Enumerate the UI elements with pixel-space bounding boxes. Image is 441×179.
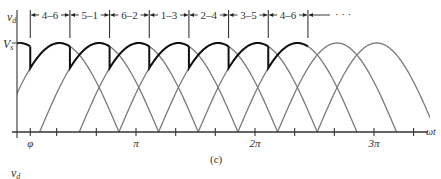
phase-voltage-humps [0, 43, 436, 132]
arrowhead-icon [309, 13, 313, 17]
arrowhead-icon [31, 13, 35, 17]
arrowhead-icon [190, 13, 194, 17]
lower-axis-label: vd [11, 166, 21, 179]
x-tick-label-9: 3π [367, 137, 380, 149]
output-voltage-trace [17, 43, 308, 68]
arrowhead-icon [105, 13, 109, 17]
output-segment-2 [110, 43, 150, 68]
output-segment-6 [268, 43, 308, 68]
arrowhead-icon [263, 13, 267, 17]
arrowhead-icon [303, 13, 307, 17]
vs-label: Vs [3, 37, 13, 52]
arrowhead-icon [111, 13, 115, 17]
output-segment-1 [70, 43, 110, 68]
interval-label-2: 6–2 [121, 9, 138, 21]
arrowhead-icon [71, 13, 75, 17]
arrowhead-icon [150, 13, 154, 17]
arrowhead-icon [230, 13, 234, 17]
output-segment-5 [229, 43, 269, 68]
interval-label-3: 1–3 [161, 9, 178, 21]
arrowhead-icon [144, 13, 148, 17]
arrowhead-icon [224, 13, 228, 17]
x-tick-label-0: φ [27, 137, 33, 149]
x-tick-labels: φπ2π3π [27, 137, 380, 149]
output-segment-0 [30, 43, 70, 68]
figure-caption: (c) [210, 153, 223, 166]
rectifier-waveform-figure: 4–65–16–21–32–43–54–6· · · vd Vs ωt φπ2π… [0, 0, 441, 179]
interval-label-4: 2–4 [201, 9, 218, 21]
interval-continuation-dots: · · · [335, 8, 352, 20]
x-tick-label-6: 2π [249, 137, 261, 149]
x-axis-label: ωt [426, 126, 436, 137]
output-segment-3 [149, 43, 189, 68]
arrowhead-icon [65, 13, 69, 17]
y-axis-label: vd [7, 10, 17, 25]
output-segment-pre [17, 43, 30, 46]
arrowhead-icon [184, 13, 188, 17]
conduction-interval-markers: 4–65–16–21–32–43–54–6· · · [30, 8, 351, 38]
interval-label-6: 4–6 [280, 9, 297, 21]
interval-label-5: 3–5 [240, 9, 257, 21]
interval-label-1: 5–1 [82, 9, 99, 21]
interval-label-0: 4–6 [42, 9, 59, 21]
output-segment-4 [189, 43, 229, 68]
x-tick-label-3: π [133, 137, 139, 149]
arrowhead-icon [269, 13, 273, 17]
